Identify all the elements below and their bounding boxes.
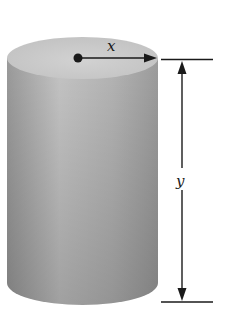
cylinder-shade <box>7 58 158 305</box>
height-arrowhead-down-icon <box>178 288 187 301</box>
cylinder-diagram: x y <box>0 0 229 330</box>
cylinder <box>7 37 158 305</box>
height-dimension: y <box>161 60 213 303</box>
height-arrowhead-up-icon <box>178 61 187 74</box>
height-label: y <box>175 172 185 190</box>
radius-label: x <box>107 37 116 55</box>
